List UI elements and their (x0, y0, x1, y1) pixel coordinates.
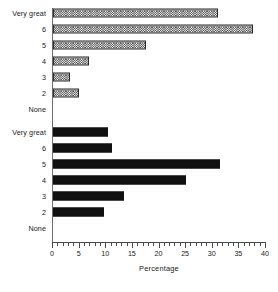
chart-row: 5 (0, 156, 278, 172)
bar (53, 73, 70, 82)
x-tick-minor (57, 243, 58, 246)
bar (53, 128, 108, 137)
category-label: 4 (0, 176, 46, 185)
category-label: Very great (0, 9, 46, 18)
x-tick-label: 20 (149, 249, 169, 258)
x-tick-minor (169, 243, 170, 246)
x-tick-minor (201, 243, 202, 246)
x-tick-minor (260, 243, 261, 246)
chart-row: 2 (0, 204, 278, 220)
x-tick-minor (100, 243, 101, 246)
x-axis-title: Percentage (52, 264, 266, 274)
category-label: None (0, 224, 46, 233)
category-label: 4 (0, 57, 46, 66)
x-tick-minor (180, 243, 181, 246)
x-tick-minor (164, 243, 165, 246)
x-tick-minor (217, 243, 218, 246)
x-tick-minor (244, 243, 245, 246)
x-tick-minor (63, 243, 64, 246)
x-tick-major (238, 243, 239, 248)
x-tick-minor (228, 243, 229, 246)
chart-row: 3 (0, 69, 278, 85)
bar (53, 160, 220, 169)
bar (53, 25, 253, 34)
category-label: 5 (0, 160, 46, 169)
x-tick-major (159, 243, 160, 248)
chart-row: 3 (0, 188, 278, 204)
x-tick-minor (196, 243, 197, 246)
x-tick-minor (116, 243, 117, 246)
bar (53, 176, 186, 185)
x-tick-label: 10 (95, 249, 115, 258)
category-label: 3 (0, 192, 46, 201)
x-tick-major (185, 243, 186, 248)
x-tick-label: 25 (175, 249, 195, 258)
chart-row: 4 (0, 172, 278, 188)
x-tick-minor (89, 243, 90, 246)
x-tick-minor (73, 243, 74, 246)
chart-row: Very great (0, 5, 278, 21)
category-label: 3 (0, 73, 46, 82)
chart-row: None (0, 101, 278, 117)
plot-area: Very great65432NoneVery great65432None 0… (0, 0, 278, 292)
chart-row: 6 (0, 21, 278, 37)
chart-row: None (0, 220, 278, 236)
bar (53, 57, 89, 66)
x-tick-minor (190, 243, 191, 246)
bar (53, 144, 112, 153)
chart-row: Very great (0, 124, 278, 140)
x-tick-major (265, 243, 266, 248)
x-tick-minor (68, 243, 69, 246)
x-tick-label: 5 (69, 249, 89, 258)
category-label: 6 (0, 25, 46, 34)
x-tick-major (52, 243, 53, 248)
x-tick-minor (95, 243, 96, 246)
category-label: 6 (0, 144, 46, 153)
x-tick-minor (137, 243, 138, 246)
category-label: 2 (0, 208, 46, 217)
x-tick-minor (127, 243, 128, 246)
x-tick-minor (174, 243, 175, 246)
x-tick-minor (254, 243, 255, 246)
category-label: 5 (0, 41, 46, 50)
category-label: Very great (0, 128, 46, 137)
x-tick-label: 30 (202, 249, 222, 258)
bar (53, 208, 104, 217)
category-label: None (0, 105, 46, 114)
chart-row: 2 (0, 85, 278, 101)
x-tick-minor (148, 243, 149, 246)
x-tick-minor (249, 243, 250, 246)
category-label: 2 (0, 89, 46, 98)
x-tick-label: 0 (42, 249, 62, 258)
x-tick-minor (143, 243, 144, 246)
chart-row: 4 (0, 53, 278, 69)
bar (53, 9, 218, 18)
x-tick-major (212, 243, 213, 248)
chart-row: 5 (0, 37, 278, 53)
x-tick-major (105, 243, 106, 248)
bar (53, 41, 146, 50)
x-tick-minor (84, 243, 85, 246)
x-tick-minor (206, 243, 207, 246)
x-tick-minor (111, 243, 112, 246)
x-tick-label: 35 (228, 249, 248, 258)
bar-chart-figure: Very great65432NoneVery great65432None 0… (0, 0, 278, 292)
bar (53, 192, 124, 201)
x-tick-minor (153, 243, 154, 246)
x-tick-major (132, 243, 133, 248)
x-tick-minor (121, 243, 122, 246)
x-tick-label: 40 (255, 249, 275, 258)
x-tick-minor (222, 243, 223, 246)
bar (53, 89, 79, 98)
chart-row: 6 (0, 140, 278, 156)
x-tick-major (79, 243, 80, 248)
x-tick-label: 15 (122, 249, 142, 258)
x-tick-minor (233, 243, 234, 246)
